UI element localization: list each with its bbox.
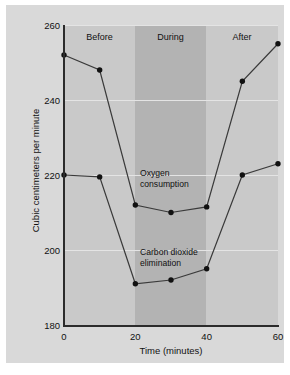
data-point [133,202,138,207]
plot-area: Before During After Oxygen consumption C… [64,25,278,325]
x-tick-label-40: 40 [201,331,212,342]
x-axis-line [63,325,279,327]
y-axis-label: Cubic centimeters per minute [30,76,41,266]
data-point [168,210,173,215]
y-axis-line [63,25,65,326]
figure-panel: Before During After Oxygen consumption C… [6,5,284,363]
data-point [204,266,209,271]
x-axis-ticks: 0204060 [64,328,278,344]
annotation-carbon-dioxide-elimination: Carbon dioxide elimination [140,247,198,268]
x-tick-label-60: 60 [273,331,284,342]
data-point [275,41,280,46]
x-tick-label-20: 20 [130,331,141,342]
data-point [240,172,245,177]
data-point [97,174,102,179]
data-point [204,204,209,209]
series-1 [61,41,280,215]
data-point [133,281,138,286]
annotation-oxygen-consumption: Oxygen consumption [140,168,189,189]
data-point [275,161,280,166]
x-axis-label: Time (minutes) [64,345,278,356]
y-axis-ticks: 180200220240260 [22,25,60,325]
chart-figure: Before During After Oxygen consumption C… [0,0,290,375]
data-point [240,79,245,84]
y-tick-label-260: 260 [26,20,60,31]
data-point [97,67,102,72]
data-point [168,277,173,282]
y-tick-label-180: 180 [26,320,60,331]
x-tick-label-0: 0 [61,331,66,342]
